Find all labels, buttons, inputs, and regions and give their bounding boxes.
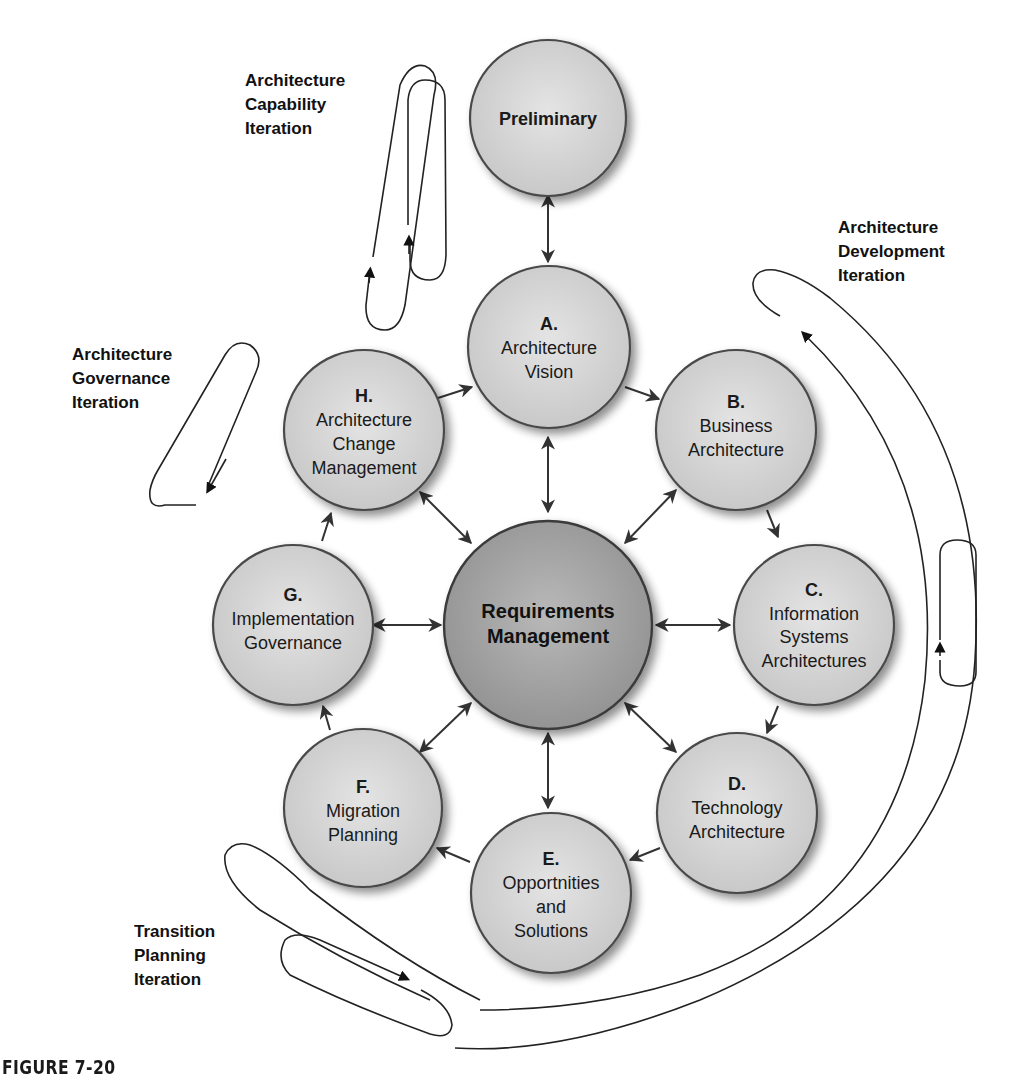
transition-iteration-label: Transition Planning Iteration [134, 922, 215, 989]
svg-text:Development: Development [838, 242, 945, 261]
governance-iteration-label: Architecture Governance Iteration [72, 345, 172, 412]
phase-e-line1: Opportnities [502, 873, 599, 893]
phase-d-technology-architecture[interactable]: D. Technology Architecture [657, 733, 817, 893]
phase-e-letter: E. [542, 849, 559, 869]
phase-a-line1: Architecture [501, 338, 597, 358]
g-to-h-connector [322, 513, 331, 541]
phase-a-line2: Vision [525, 362, 574, 382]
e-to-f-connector [437, 848, 470, 862]
phase-a-letter: A. [540, 314, 558, 334]
capability-iteration-loop [366, 65, 446, 330]
phase-d-letter: D. [728, 774, 746, 794]
center-line2: Management [487, 625, 610, 647]
phase-g-implementation-governance[interactable]: G. Implementation Governance [213, 545, 373, 705]
phase-e-line2: and [536, 897, 566, 917]
svg-text:Planning: Planning [134, 946, 206, 965]
figure-caption: FIGURE 7-20 [2, 1056, 115, 1078]
phase-b-business-architecture[interactable]: B. Business Architecture [656, 350, 816, 510]
b-center-connector [625, 490, 676, 543]
d-center-connector [625, 703, 676, 752]
svg-text:Architecture: Architecture [72, 345, 172, 364]
phase-b-line2: Architecture [688, 440, 784, 460]
svg-text:Architecture: Architecture [245, 71, 345, 90]
phase-c-letter: C. [805, 580, 823, 600]
phase-b-line1: Business [699, 416, 772, 436]
f-to-g-connector [323, 706, 330, 730]
preliminary-label: Preliminary [499, 109, 597, 129]
phase-f-letter: F. [356, 777, 370, 797]
phase-e-opportunities-and-solutions[interactable]: E. Opportnities and Solutions [471, 813, 631, 973]
governance-iteration-loop [150, 343, 259, 506]
phase-c-line1: Information [769, 604, 859, 624]
svg-text:Iteration: Iteration [72, 393, 139, 412]
h-to-a-connector [438, 387, 472, 398]
phase-d-line1: Technology [691, 798, 782, 818]
phase-f-line2: Planning [328, 825, 398, 845]
h-center-connector [420, 492, 471, 543]
phase-c-information-systems-architectures[interactable]: C. Information Systems Architectures [734, 545, 894, 705]
phase-f-line1: Migration [326, 801, 400, 821]
b-to-c-connector [767, 510, 778, 537]
phase-f-migration-planning[interactable]: F. Migration Planning [284, 729, 442, 887]
center-line1: Requirements [481, 600, 614, 622]
development-inner-loop [940, 540, 976, 686]
phase-h-line1: Architecture [316, 410, 412, 430]
svg-text:Architecture: Architecture [838, 218, 938, 237]
f-center-connector [420, 703, 471, 752]
phase-h-line2: Change [332, 434, 395, 454]
phase-c-line2: Systems [779, 627, 848, 647]
svg-text:Transition: Transition [134, 922, 215, 941]
phase-g-line1: Implementation [231, 609, 354, 629]
svg-text:Governance: Governance [72, 369, 170, 388]
phase-preliminary[interactable]: Preliminary [470, 40, 626, 196]
phase-d-line2: Architecture [689, 822, 785, 842]
phase-e-line3: Solutions [514, 921, 588, 941]
svg-text:Iteration: Iteration [245, 119, 312, 138]
phase-g-letter: G. [283, 585, 302, 605]
phase-h-letter: H. [355, 386, 373, 406]
capability-iteration-label: Architecture Capability Iteration [245, 71, 345, 138]
phase-g-line2: Governance [244, 633, 342, 653]
svg-text:Iteration: Iteration [838, 266, 905, 285]
d-to-e-connector [630, 848, 660, 860]
c-to-d-connector [767, 706, 778, 733]
svg-text:Capability: Capability [245, 95, 327, 114]
phase-a-architecture-vision[interactable]: A. Architecture Vision [468, 266, 630, 428]
togaf-adm-cycle-diagram: Preliminary A. Architecture Vision B. Bu… [0, 0, 1012, 1083]
phase-b-letter: B. [727, 392, 745, 412]
phase-h-architecture-change-management[interactable]: H. Architecture Change Management [284, 350, 444, 510]
svg-text:Iteration: Iteration [134, 970, 201, 989]
phase-h-line3: Management [311, 458, 416, 478]
a-to-b-connector [625, 387, 659, 399]
requirements-management-hub[interactable]: Requirements Management [444, 521, 652, 729]
phase-c-line3: Architectures [761, 651, 866, 671]
development-iteration-label: Architecture Development Iteration [838, 218, 945, 285]
